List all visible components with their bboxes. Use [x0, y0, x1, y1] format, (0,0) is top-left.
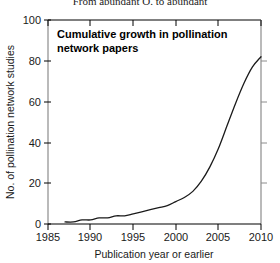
line-chart: 100 80 60 40 20 0 [0, 0, 280, 263]
top-axis-ticks [48, 20, 261, 26]
x-tick-label-1995: 1995 [121, 231, 145, 243]
plot-title-line-2: network papers [57, 42, 138, 54]
y-tick-label-80: 80 [29, 55, 41, 67]
x-tick-label-2005: 2005 [206, 231, 230, 243]
x-axis-title: Publication year or earlier [94, 248, 214, 260]
x-axis-ticks [48, 224, 261, 230]
clipped-top-caption: From abundant O. to abundant [0, 0, 280, 5]
plot-title-line-1: Cumulative growth in pollination [57, 28, 228, 40]
y-tick-label-40: 40 [29, 137, 41, 149]
right-axis-ticks [261, 61, 267, 183]
y-axis-tick-labels: 100 80 60 40 20 0 [23, 14, 41, 230]
x-tick-label-1985: 1985 [36, 231, 60, 243]
y-tick-label-60: 60 [29, 96, 41, 108]
y-tick-label-100: 100 [23, 14, 41, 26]
y-tick-label-20: 20 [29, 177, 41, 189]
x-tick-label-2000: 2000 [164, 231, 188, 243]
x-axis-tick-labels: 1985 1990 1995 2000 2005 2010 [36, 231, 273, 243]
x-tick-label-2010: 2010 [249, 231, 273, 243]
series-line-cumulative-papers [65, 57, 261, 222]
figure-container: From abundant O. to abundant 100 80 60 4… [0, 0, 280, 263]
y-tick-label-0: 0 [35, 218, 41, 230]
x-tick-label-1990: 1990 [78, 231, 102, 243]
y-axis-title: No. of pollination network studies [4, 45, 16, 199]
